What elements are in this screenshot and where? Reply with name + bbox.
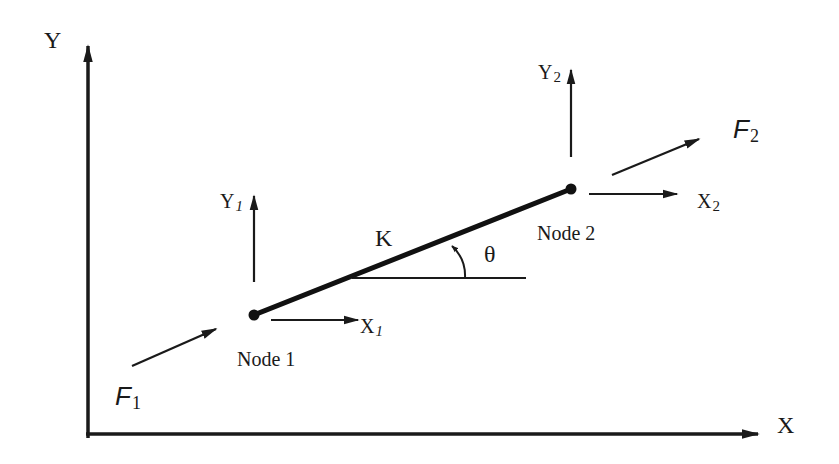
node1-point	[249, 310, 260, 321]
node1-force-label: F1	[115, 381, 141, 413]
node2-x-dof-label: X2	[697, 190, 720, 214]
node2-force-label: F2	[733, 114, 759, 146]
angle-theta-label: θ	[484, 241, 496, 267]
global-y-axis-label: Y	[44, 27, 61, 53]
diagram-canvas: Y X θ K Y1 X1 Node 1 F1 Y2 X2 Node 2 F2	[0, 0, 839, 464]
node1-x-dof-label: X1	[360, 315, 383, 339]
node2-point	[566, 184, 577, 195]
node1-y-dof-label: Y1	[220, 190, 243, 214]
node1-force-arrow	[132, 329, 216, 366]
angle-arc-arrow	[452, 246, 465, 278]
stiffness-label: K	[375, 225, 393, 251]
node2-y-dof-label: Y2	[538, 61, 561, 85]
node1-label: Node 1	[237, 348, 295, 370]
diagram-svg: Y X θ K Y1 X1 Node 1 F1 Y2 X2 Node 2 F2	[0, 0, 839, 464]
global-x-axis-label: X	[777, 412, 794, 438]
element-bar	[254, 189, 571, 315]
node2-label: Node 2	[537, 222, 595, 244]
node2-force-arrow	[612, 139, 699, 175]
